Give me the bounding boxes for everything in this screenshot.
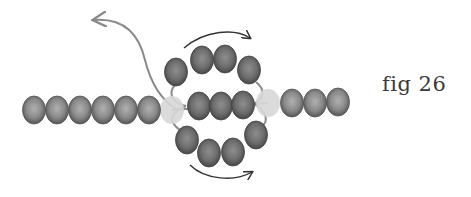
right-bead-chain — [281, 88, 350, 117]
left-bead-chain — [23, 96, 161, 124]
top-bead-arc — [165, 45, 261, 86]
figure-caption: fig 26 — [382, 72, 446, 96]
light-bead-right — [256, 89, 280, 117]
top-direction-arrow — [184, 32, 250, 48]
bottom-bead-arc — [176, 121, 268, 167]
light-bead-left — [160, 96, 184, 124]
middle-bead-row — [188, 91, 255, 120]
beading-diagram — [0, 0, 471, 197]
bottom-direction-arrow — [190, 165, 252, 178]
